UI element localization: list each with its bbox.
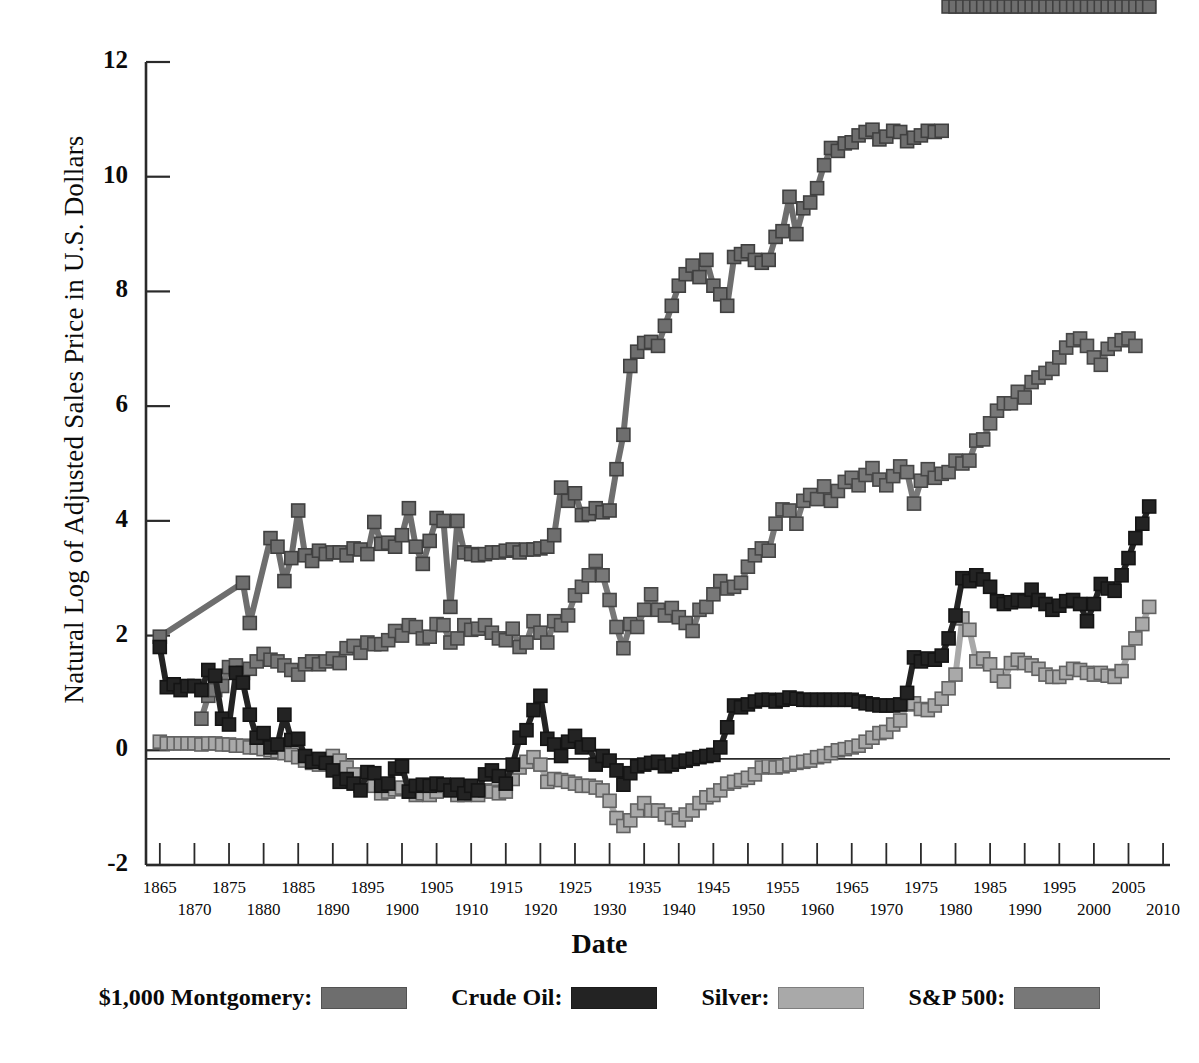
data-point bbox=[555, 750, 568, 763]
legend-item[interactable]: S&P 500: bbox=[908, 984, 1100, 1011]
legend-swatch bbox=[1014, 987, 1100, 1009]
data-point bbox=[776, 225, 789, 238]
data-point bbox=[396, 529, 409, 542]
legend-swatch bbox=[778, 987, 864, 1009]
data-point bbox=[645, 588, 658, 601]
x-tick-label: 1875 bbox=[194, 878, 264, 898]
data-point bbox=[769, 517, 782, 530]
data-point bbox=[1094, 358, 1107, 371]
data-point bbox=[700, 253, 713, 266]
data-point bbox=[818, 480, 831, 493]
data-point bbox=[506, 758, 519, 771]
x-tick-label: 1890 bbox=[298, 900, 368, 920]
y-tick-label: -2 bbox=[68, 849, 128, 877]
data-point bbox=[382, 777, 395, 790]
series-line bbox=[153, 600, 1155, 832]
data-point bbox=[257, 727, 270, 740]
x-tick-label: 1900 bbox=[367, 900, 437, 920]
data-point bbox=[589, 555, 602, 568]
legend-item[interactable]: Silver: bbox=[701, 984, 864, 1011]
data-point bbox=[437, 619, 450, 632]
legend-item[interactable]: $1,000 Montgomery: bbox=[99, 984, 407, 1011]
data-point bbox=[762, 253, 775, 266]
data-point bbox=[721, 299, 734, 312]
data-point bbox=[236, 576, 249, 589]
data-point bbox=[548, 529, 561, 542]
x-tick-label: 2000 bbox=[1059, 900, 1129, 920]
data-point bbox=[451, 514, 464, 527]
x-tick-label: 1905 bbox=[402, 878, 472, 898]
legend-item[interactable]: Crude Oil: bbox=[451, 984, 657, 1011]
data-point bbox=[1122, 552, 1135, 565]
data-point bbox=[935, 124, 948, 137]
data-point bbox=[977, 433, 990, 446]
x-tick-label: 1870 bbox=[159, 900, 229, 920]
data-point bbox=[409, 540, 422, 553]
data-point bbox=[818, 159, 831, 172]
legend-label: Crude Oil: bbox=[451, 984, 562, 1011]
data-point bbox=[153, 641, 166, 654]
x-tick-label: 1880 bbox=[229, 900, 299, 920]
data-point bbox=[790, 517, 803, 530]
data-point bbox=[610, 764, 623, 777]
legend-label: Silver: bbox=[701, 984, 769, 1011]
x-tick-label: 1995 bbox=[1024, 878, 1094, 898]
y-tick-label: 0 bbox=[68, 734, 128, 762]
data-point bbox=[942, 682, 955, 695]
data-point bbox=[935, 649, 948, 662]
data-point bbox=[1122, 646, 1135, 659]
x-tick-label: 1895 bbox=[332, 878, 402, 898]
data-point bbox=[437, 514, 450, 527]
data-point bbox=[735, 576, 748, 589]
data-point bbox=[894, 714, 907, 727]
data-point bbox=[908, 497, 921, 510]
data-point bbox=[1087, 598, 1100, 611]
data-point bbox=[949, 609, 962, 622]
x-tick-label: 1950 bbox=[713, 900, 783, 920]
data-point bbox=[520, 636, 533, 649]
data-point bbox=[1115, 665, 1128, 678]
data-point bbox=[804, 196, 817, 209]
data-point bbox=[423, 630, 436, 643]
data-point bbox=[333, 657, 346, 670]
data-point bbox=[195, 712, 208, 725]
data-point bbox=[901, 686, 914, 699]
data-point bbox=[603, 794, 616, 807]
data-point bbox=[396, 760, 409, 773]
data-point bbox=[582, 738, 595, 751]
data-point bbox=[361, 548, 374, 561]
data-point bbox=[534, 689, 547, 702]
data-point bbox=[596, 569, 609, 582]
data-point bbox=[1136, 618, 1149, 631]
data-point bbox=[1115, 569, 1128, 582]
data-point bbox=[278, 708, 291, 721]
data-point bbox=[527, 704, 540, 717]
data-point bbox=[271, 540, 284, 553]
data-point bbox=[243, 617, 256, 630]
y-tick-label: 12 bbox=[68, 46, 128, 74]
data-point bbox=[652, 339, 665, 352]
y-tick-label: 4 bbox=[68, 505, 128, 533]
data-point bbox=[610, 463, 623, 476]
chart-legend: $1,000 Montgomery:Crude Oil:Silver:S&P 5… bbox=[0, 984, 1199, 1011]
data-point bbox=[285, 552, 298, 565]
data-point bbox=[783, 190, 796, 203]
data-point bbox=[472, 784, 485, 797]
data-point bbox=[1143, 500, 1156, 513]
x-tick-label: 1910 bbox=[436, 900, 506, 920]
data-point bbox=[562, 609, 575, 622]
x-tick-label: 2005 bbox=[1093, 878, 1163, 898]
data-point bbox=[1129, 632, 1142, 645]
data-point bbox=[292, 504, 305, 517]
data-point bbox=[984, 417, 997, 430]
x-tick-label: 1960 bbox=[782, 900, 852, 920]
data-point bbox=[368, 767, 381, 780]
series-line bbox=[195, 0, 1156, 725]
data-point bbox=[963, 623, 976, 636]
y-tick-label: 6 bbox=[68, 390, 128, 418]
data-point bbox=[209, 669, 222, 682]
data-point bbox=[1143, 0, 1156, 13]
y-tick-label: 2 bbox=[68, 620, 128, 648]
data-point bbox=[901, 466, 914, 479]
data-point bbox=[624, 360, 637, 373]
